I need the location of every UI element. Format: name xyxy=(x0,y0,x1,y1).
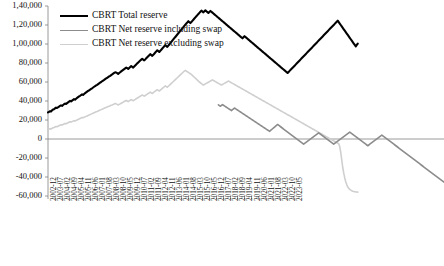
legend-color-swatch xyxy=(60,30,88,31)
y-tick-label: 0 xyxy=(0,134,42,143)
legend-label: CBRT Net reserve excluding swap xyxy=(92,39,224,49)
legend-label: CBRT Net reserve including swap xyxy=(92,25,222,35)
y-tick-label: -20,000 xyxy=(0,153,42,162)
chart-legend: CBRT Total reserveCBRT Net reserve inclu… xyxy=(60,9,224,51)
legend-color-swatch xyxy=(60,44,88,45)
y-tick-label: 1,20,000 xyxy=(0,20,42,29)
y-tick-marks xyxy=(45,6,48,196)
y-tick-label: -60,000 xyxy=(0,191,42,200)
legend-item[interactable]: CBRT Total reserve xyxy=(60,9,224,23)
series-line xyxy=(218,105,444,183)
y-tick-label: 1,00,000 xyxy=(0,39,42,48)
legend-color-swatch xyxy=(60,15,88,17)
y-tick-label: 1,40,000 xyxy=(0,1,42,10)
y-tick-label: 20,000 xyxy=(0,115,42,124)
series-line xyxy=(48,70,358,192)
y-tick-label: 60,000 xyxy=(0,77,42,86)
y-tick-label: 80,000 xyxy=(0,58,42,67)
legend-item[interactable]: CBRT Net reserve excluding swap xyxy=(60,37,224,51)
y-tick-label: -40,000 xyxy=(0,172,42,181)
legend-item[interactable]: CBRT Net reserve including swap xyxy=(60,23,224,37)
line-chart: 1,40,0001,20,0001,00,00080,00060,00040,0… xyxy=(0,0,444,266)
x-tick-label: 2023-05 xyxy=(297,177,304,201)
y-tick-label: 40,000 xyxy=(0,96,42,105)
legend-label: CBRT Total reserve xyxy=(92,11,167,21)
